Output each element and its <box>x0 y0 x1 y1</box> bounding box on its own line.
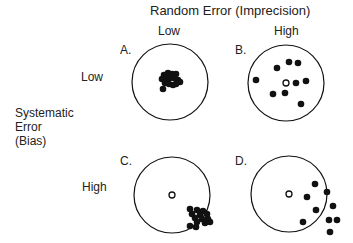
measurement-dot <box>270 91 277 98</box>
measurement-dot <box>274 65 281 72</box>
measurement-dot <box>300 219 307 226</box>
target-panel-d <box>251 156 340 235</box>
measurement-dot <box>207 219 214 226</box>
target-panel-b <box>248 45 324 121</box>
true-value-marker <box>283 80 289 86</box>
measurement-dot <box>193 224 200 231</box>
measurement-dot <box>160 86 167 93</box>
measurement-dot <box>327 229 334 236</box>
measurement-dot <box>330 203 337 210</box>
true-value-marker <box>169 192 175 198</box>
target-diagram <box>0 0 353 243</box>
measurement-dot <box>334 217 341 224</box>
measurement-dot <box>326 217 333 224</box>
measurement-dot <box>303 78 310 85</box>
measurement-dot <box>173 81 180 88</box>
measurement-dot <box>298 101 305 108</box>
measurement-dot <box>324 189 331 196</box>
target-panel-a <box>132 44 208 120</box>
measurement-dot <box>282 90 289 97</box>
true-value-marker <box>286 191 292 197</box>
measurement-dot <box>293 80 300 87</box>
measurement-dot <box>187 223 194 230</box>
measurement-dot <box>312 181 319 188</box>
measurement-dot <box>253 77 260 84</box>
target-panel-c <box>134 157 213 233</box>
measurement-dot <box>304 194 311 201</box>
measurement-dot <box>286 59 293 66</box>
measurement-dot <box>295 60 302 67</box>
measurement-dot <box>313 207 320 214</box>
